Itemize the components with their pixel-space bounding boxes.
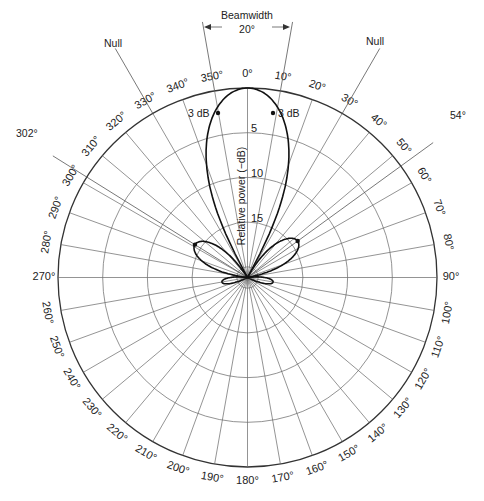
- angle-label-0: 0°: [242, 67, 253, 79]
- spoke-110: [248, 278, 426, 343]
- polar-diagram-container: 0°10°20°30°40°50°60°70°80°90°100°110°120…: [0, 0, 484, 501]
- spoke-40: [248, 132, 370, 277]
- angle-label-310: 310°: [79, 133, 103, 158]
- arrowhead-left-icon: [204, 24, 211, 30]
- angle-label-70: 70°: [431, 198, 448, 218]
- side-lobe-peak-54: [295, 239, 299, 243]
- angle-label-290: 290°: [46, 195, 65, 220]
- spoke-220: [126, 278, 248, 423]
- angle-label-190: 190°: [200, 469, 225, 485]
- angle-label-140: 140°: [365, 421, 390, 445]
- angle-label-280: 280°: [38, 230, 54, 255]
- angle-label-260: 260°: [40, 300, 56, 325]
- angle-label-130: 130°: [391, 395, 415, 420]
- angle-label-80: 80°: [442, 233, 457, 251]
- ring-label-5db: 5: [251, 122, 257, 134]
- spoke-200: [183, 278, 248, 456]
- spoke-20: [248, 99, 313, 277]
- angle-label-150: 150°: [336, 442, 362, 464]
- angle-label-160: 160°: [304, 458, 329, 477]
- spoke-250: [69, 278, 247, 343]
- arrowhead-right-icon: [283, 24, 290, 30]
- angle-label-110: 110°: [428, 334, 447, 359]
- spoke-310: [102, 156, 247, 278]
- spoke-140: [248, 278, 370, 423]
- angle-label-120: 120°: [412, 366, 434, 392]
- angle-label-170: 170°: [270, 469, 295, 485]
- radiation-pattern-plot: 0°10°20°30°40°50°60°70°80°90°100°110°120…: [0, 0, 484, 501]
- side-lobe-left-angle-label: 302°: [16, 127, 38, 139]
- angle-label-40: 40°: [369, 111, 389, 131]
- angle-label-200: 200°: [166, 458, 191, 477]
- null-leader-30: [342, 48, 380, 113]
- three-db-left-label: 3 dB: [188, 107, 210, 119]
- ring-label-15db: 15: [251, 212, 263, 224]
- angle-label-340: 340°: [165, 76, 190, 95]
- spoke-230: [102, 278, 247, 400]
- angle-label-60: 60°: [415, 165, 434, 185]
- angle-label-230: 230°: [81, 395, 105, 420]
- angle-label-50: 50°: [394, 136, 414, 156]
- angle-label-20: 20°: [308, 77, 328, 94]
- angle-label-180: 180°: [236, 474, 259, 486]
- angle-label-100: 100°: [439, 300, 455, 325]
- side-lobe-right-angle-label: 54°: [450, 109, 466, 121]
- angle-label-210: 210°: [133, 442, 159, 464]
- angle-label-90: 90°: [443, 270, 460, 282]
- angle-label-320: 320°: [103, 109, 128, 133]
- angle-label-220: 220°: [105, 421, 130, 445]
- side-lobe-leader-54: [248, 143, 434, 278]
- three-db-point-left: [216, 111, 220, 115]
- side-lobe-peak-302: [193, 242, 197, 246]
- three-db-right-label: 3 dB: [278, 107, 300, 119]
- three-db-point-right: [271, 111, 275, 115]
- beamwidth-value: 20°: [239, 23, 255, 35]
- beamwidth-title: Beamwidth: [221, 9, 273, 21]
- spoke-160: [248, 278, 313, 456]
- angle-label-300: 300°: [59, 162, 81, 188]
- spoke-50: [248, 156, 393, 278]
- angle-label-240: 240°: [61, 366, 83, 392]
- null-left-label: Null: [104, 37, 122, 49]
- angle-label-250: 250°: [48, 334, 67, 359]
- radial-axis-label: Relative power (−dB): [235, 147, 247, 245]
- spoke-130: [248, 278, 393, 400]
- angle-label-270: 270°: [33, 270, 56, 282]
- ring-label-10db: 10: [251, 167, 263, 179]
- null-right-label: Null: [366, 35, 384, 47]
